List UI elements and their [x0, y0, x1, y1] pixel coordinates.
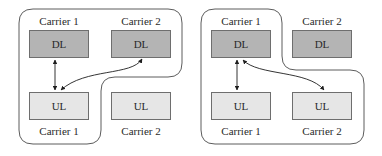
right-ul-carrier-2: UL	[292, 92, 352, 120]
left-ul-carrier-1: UL	[29, 92, 89, 120]
left-top-label-carrier-2: Carrier 2	[110, 15, 172, 27]
right-ul-carrier-1: UL	[211, 92, 271, 120]
left-dl-carrier-2: DL	[111, 30, 171, 58]
right-bottom-label-carrier-1: Carrier 1	[210, 125, 272, 137]
left-bottom-label-carrier-1: Carrier 1	[28, 125, 90, 137]
left-ul-carrier-2: UL	[111, 92, 171, 120]
right-top-label-carrier-2: Carrier 2	[291, 15, 353, 27]
left-top-label-carrier-1: Carrier 1	[28, 15, 90, 27]
left-dl-carrier-1: DL	[29, 30, 89, 58]
right-dl-carrier-2: DL	[292, 30, 352, 58]
right-bottom-label-carrier-2: Carrier 2	[291, 125, 353, 137]
right-dl-carrier-1: DL	[211, 30, 271, 58]
left-bottom-label-carrier-2: Carrier 2	[110, 125, 172, 137]
right-top-label-carrier-1: Carrier 1	[210, 15, 272, 27]
